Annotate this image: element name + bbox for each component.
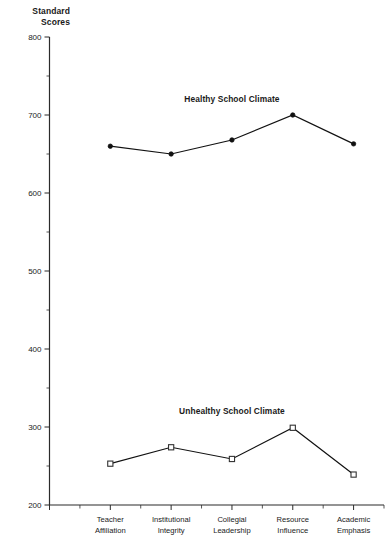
y-axis-ticks: 200300400500600700800 [28, 33, 49, 510]
data-series [108, 425, 356, 477]
series-label: Unhealthy School Climate [179, 406, 285, 416]
y-tick-label: 200 [28, 501, 42, 510]
data-point-marker [229, 456, 234, 461]
x-tick-label: Integrity [158, 526, 185, 535]
x-tick-label: Resource [277, 515, 310, 524]
x-tick-label: Collegial [217, 515, 246, 524]
x-axis-labels: TeacherAffiliationInstitutionalIntegrity… [95, 515, 370, 535]
x-tick-label: Affiliation [95, 526, 126, 535]
data-point-marker [290, 425, 295, 430]
y-tick-label: 400 [28, 345, 42, 354]
line-chart: Standard Scores 200300400500600700800 He… [0, 0, 392, 540]
data-series [108, 113, 356, 156]
x-tick-label: Academic [337, 515, 371, 524]
data-point-marker [351, 142, 355, 146]
series-label: Healthy School Climate [184, 94, 280, 104]
data-point-marker [169, 152, 173, 156]
x-axis-ticks [50, 505, 385, 510]
y-tick-label: 800 [28, 33, 42, 42]
data-point-marker [108, 461, 113, 466]
y-tick-label: 300 [28, 423, 42, 432]
y-axis-title: Standard Scores [4, 6, 70, 28]
x-tick-label: Institutional [152, 515, 191, 524]
data-point-marker [291, 113, 295, 117]
data-series-group [108, 113, 356, 477]
data-point-marker [108, 144, 112, 148]
x-tick-label: Influence [277, 526, 308, 535]
y-tick-label: 700 [28, 111, 42, 120]
axis-path [50, 37, 385, 505]
data-point-marker [351, 472, 356, 477]
x-tick-label: Teacher [97, 515, 124, 524]
data-point-marker [169, 445, 174, 450]
y-tick-label: 500 [28, 267, 42, 276]
y-tick-label: 600 [28, 189, 42, 198]
axis-lines [50, 37, 385, 505]
x-tick-label: Leadership [213, 526, 251, 535]
data-point-marker [230, 138, 234, 142]
x-tick-label: Emphasis [337, 526, 371, 535]
plot-area: 200300400500600700800 Healthy School Cli… [0, 0, 392, 540]
